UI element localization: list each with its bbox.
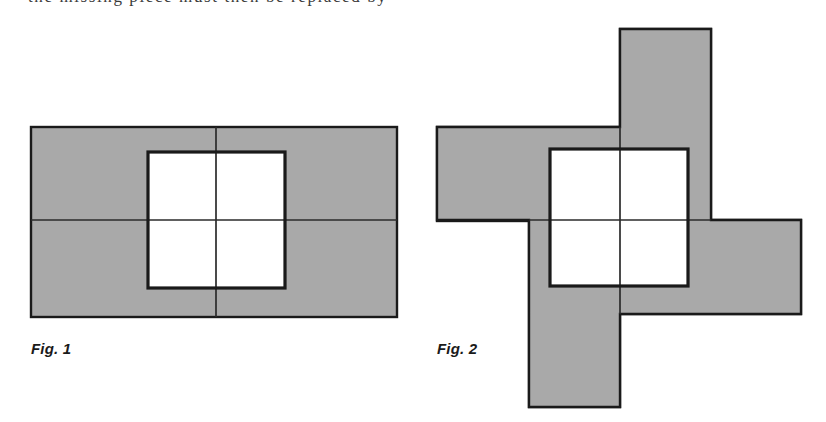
figures-canvas (0, 0, 826, 422)
figure-1-caption: Fig. 1 (31, 340, 71, 357)
figure-page: the missing piece must then be replaced … (0, 0, 826, 422)
figure-1-group (31, 127, 397, 317)
fig2-white-square-fill (550, 149, 688, 286)
figure-2-group (437, 29, 801, 407)
figure-2-caption: Fig. 2 (437, 340, 477, 357)
